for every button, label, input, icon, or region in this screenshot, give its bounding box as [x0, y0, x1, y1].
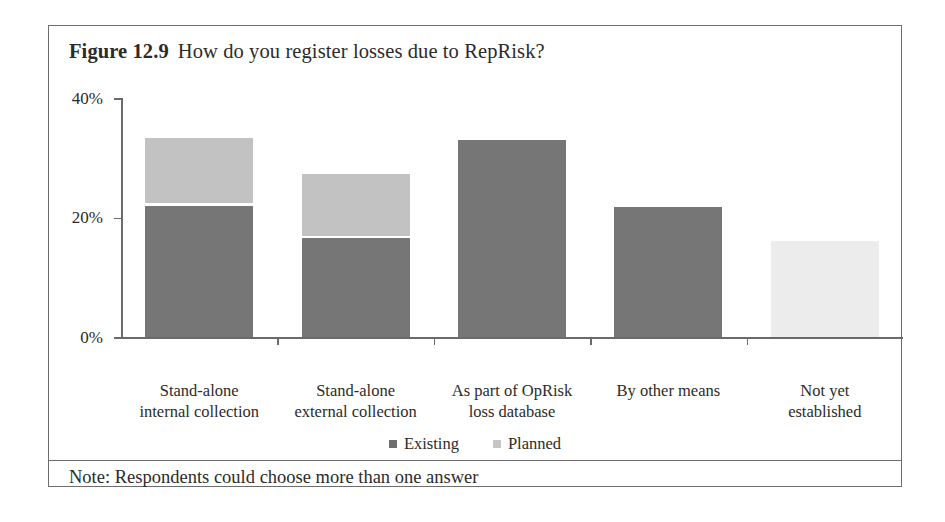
- legend-item[interactable]: Existing: [389, 434, 459, 454]
- x-axis-category-label: Not yetestablished: [747, 380, 903, 422]
- bar-segment-planned[interactable]: [302, 174, 410, 236]
- x-axis-line: [121, 337, 903, 339]
- figure-question: How do you register losses due to RepRis…: [178, 40, 545, 62]
- x-axis-tick: [747, 337, 749, 345]
- bar-segment-existing[interactable]: [458, 140, 566, 337]
- x-axis-category-label: As part of OpRiskloss database: [434, 380, 590, 422]
- category-label-line: established: [747, 401, 903, 422]
- square-marker-icon: [389, 440, 397, 448]
- y-axis-tick-label: 40%: [72, 89, 103, 109]
- x-axis-category-label: By other means: [590, 380, 746, 401]
- page-title: Figure 12.9How do you register losses du…: [69, 40, 545, 63]
- category-label-line: Not yet: [747, 380, 903, 401]
- y-axis-tick: 40%: [114, 98, 122, 100]
- legend-item[interactable]: Planned: [493, 434, 561, 454]
- bar-column[interactable]: [302, 174, 410, 337]
- category-label-line: Stand-alone: [121, 380, 277, 401]
- x-axis-tick: [277, 337, 279, 345]
- x-axis-category-label: Stand-aloneexternal collection: [277, 380, 433, 422]
- category-label-line: loss database: [434, 401, 590, 422]
- legend-item-label: Planned: [508, 434, 561, 454]
- bar-segment-planned[interactable]: [145, 138, 253, 203]
- chart-legend: ExistingPlanned: [49, 434, 901, 454]
- bar-column[interactable]: [614, 207, 722, 337]
- bar-column[interactable]: [145, 138, 253, 337]
- bar-column[interactable]: [458, 140, 566, 337]
- y-axis-tick-label: 0%: [80, 328, 103, 348]
- bar-column[interactable]: [771, 241, 879, 337]
- legend-item-label: Existing: [404, 434, 459, 454]
- category-label-line: By other means: [590, 380, 746, 401]
- bar-segment-planned[interactable]: [771, 241, 879, 337]
- x-axis-tick: [434, 337, 436, 345]
- bar-segment-existing[interactable]: [302, 238, 410, 337]
- figure-note: Note: Respondents could choose more than…: [69, 467, 478, 488]
- square-marker-icon: [493, 440, 501, 448]
- x-axis-tick: [590, 337, 592, 345]
- bar-segment-existing[interactable]: [614, 207, 722, 337]
- figure-frame: Figure 12.9How do you register losses du…: [48, 25, 902, 487]
- x-axis-category-label: Stand-aloneinternal collection: [121, 380, 277, 422]
- y-axis-tick: 0%: [114, 337, 122, 339]
- y-axis-tick: 20%: [114, 218, 122, 220]
- category-label-line: internal collection: [121, 401, 277, 422]
- figure-number: Figure 12.9: [69, 40, 169, 62]
- category-label-line: external collection: [277, 401, 433, 422]
- category-label-line: Stand-alone: [277, 380, 433, 401]
- category-label-line: As part of OpRisk: [434, 380, 590, 401]
- y-axis-tick-label: 20%: [72, 208, 103, 228]
- note-divider: [49, 460, 901, 461]
- plot-area: 0%20%40%: [121, 98, 903, 337]
- bar-segment-existing[interactable]: [145, 206, 253, 337]
